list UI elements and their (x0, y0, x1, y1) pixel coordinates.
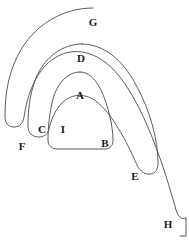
curves-layer (0, 0, 189, 250)
region-label-e: E (131, 171, 138, 182)
outer-curve-g-f-h (5, 8, 186, 219)
diagram-canvas: G D A C I B F E H (0, 0, 189, 250)
region-label-d: D (77, 53, 85, 64)
region-label-h: H (164, 219, 173, 230)
region-label-f: F (19, 141, 26, 152)
region-label-c: C (38, 124, 46, 135)
region-label-i: I (61, 124, 65, 135)
region-label-g: G (89, 17, 98, 28)
region-label-a: A (76, 90, 84, 101)
outer-curve-right-edge (180, 218, 186, 236)
region-label-b: B (101, 138, 108, 149)
